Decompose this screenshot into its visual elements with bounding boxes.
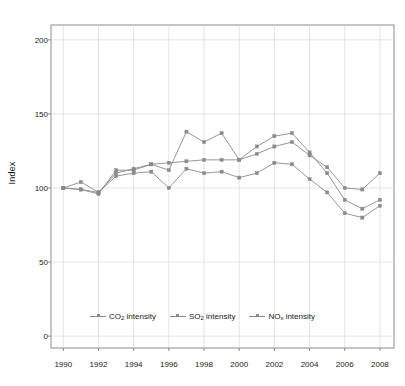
chart-legend: CO2 intensitySO2 intensityNOx intensity xyxy=(0,312,405,321)
legend-marker-icon xyxy=(249,313,265,321)
x-tick-label: 2008 xyxy=(371,360,389,369)
y-tick-label: 50 xyxy=(39,258,48,267)
legend-label: CO2 intensity xyxy=(109,312,156,321)
legend-marker-icon xyxy=(170,313,186,321)
legend-item[interactable]: NOx intensity xyxy=(249,312,315,321)
plot-area xyxy=(0,0,405,386)
x-tick-label: 1992 xyxy=(90,360,108,369)
legend-label: SO2 intensity xyxy=(189,312,235,321)
y-tick-label: 200 xyxy=(35,35,48,44)
x-tick-label: 2000 xyxy=(230,360,248,369)
y-tick-label: 150 xyxy=(35,109,48,118)
x-tick-label: 1998 xyxy=(195,360,213,369)
x-tick-label: 2002 xyxy=(265,360,283,369)
y-tick-label: 100 xyxy=(35,183,48,192)
x-tick-label: 2006 xyxy=(336,360,354,369)
x-tick-label: 1996 xyxy=(160,360,178,369)
x-tick-label: 1994 xyxy=(125,360,143,369)
legend-label: NOx intensity xyxy=(268,312,315,321)
y-axis-tick-labels: 050100150200 xyxy=(18,0,48,386)
chart-figure: Index 050100150200 199019921994199619982… xyxy=(0,0,405,386)
legend-item[interactable]: SO2 intensity xyxy=(170,312,235,321)
x-tick-label: 2004 xyxy=(301,360,319,369)
legend-item[interactable]: CO2 intensity xyxy=(90,312,156,321)
legend-marker-icon xyxy=(90,313,106,321)
y-tick-label: 0 xyxy=(44,332,48,341)
x-tick-label: 1990 xyxy=(54,360,72,369)
x-axis-tick-labels: 1990199219941996199820002002200420062008 xyxy=(0,360,405,374)
